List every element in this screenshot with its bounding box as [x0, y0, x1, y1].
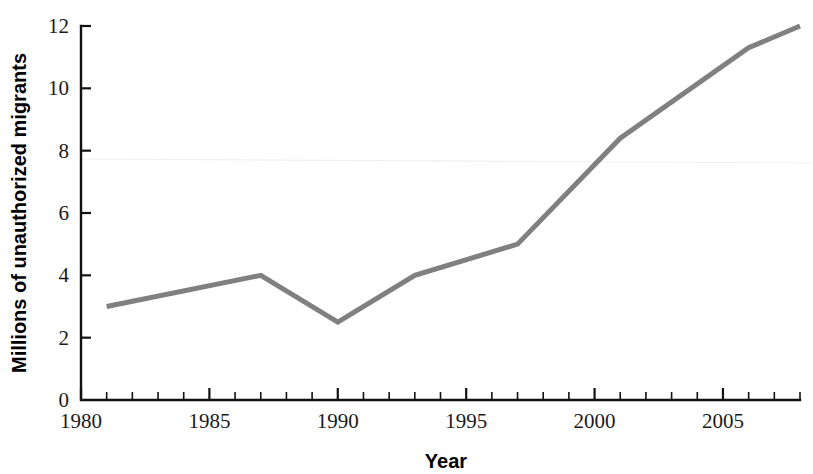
- chart-canvas: 024681012 198019851990199520002005 Milli…: [0, 0, 813, 474]
- x-axis-title: Year: [425, 450, 467, 472]
- x-tick-label: 2005: [702, 409, 744, 433]
- y-tick-label: 8: [59, 139, 70, 163]
- x-tick-label: 1980: [60, 409, 102, 433]
- y-tick-label: 4: [59, 263, 70, 287]
- y-tick-label: 12: [48, 14, 69, 38]
- y-tick-label: 10: [48, 76, 69, 100]
- y-axis-title: Millions of unauthorized migrants: [8, 53, 30, 373]
- x-tick-label: 1985: [188, 409, 230, 433]
- x-tick-label: 1995: [445, 409, 487, 433]
- chart-background: [0, 0, 813, 474]
- y-tick-label: 6: [59, 201, 70, 225]
- x-tick-label: 2000: [574, 409, 616, 433]
- line-chart: 024681012 198019851990199520002005 Milli…: [0, 0, 813, 474]
- x-tick-label: 1990: [317, 409, 359, 433]
- y-tick-label: 2: [59, 326, 70, 350]
